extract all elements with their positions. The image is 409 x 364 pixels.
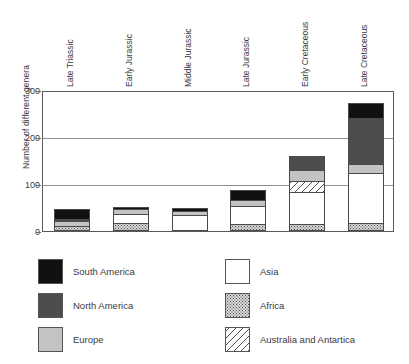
bar-segment-asia xyxy=(114,215,148,224)
bar-late-triassic xyxy=(54,209,90,231)
legend-swatch-asia xyxy=(225,259,250,284)
bar-segment-europe xyxy=(290,171,324,182)
bar-segment-north-america xyxy=(349,119,383,165)
y-tick-mark-300 xyxy=(36,91,41,92)
legend-item-africa[interactable]: Africa xyxy=(225,290,355,320)
legend-column-left: South AmericaNorth AmericaEurope xyxy=(38,256,135,358)
y-tick-label-200: 200 xyxy=(6,133,40,143)
x-axis-label-middle-jurassic: Middle Jurassic xyxy=(183,28,193,87)
bar-segment-africa xyxy=(290,225,324,230)
bar-segment-asia xyxy=(231,207,265,225)
bar-middle-jurassic xyxy=(172,208,208,232)
y-tick-mark-0 xyxy=(36,232,41,233)
legend-item-europe[interactable]: Europe xyxy=(38,324,135,354)
legend-item-south-america[interactable]: South America xyxy=(38,256,135,286)
x-axis-labels: Late TriassicEarly JurassicMiddle Jurass… xyxy=(42,0,394,91)
bar-segment-asia xyxy=(349,174,383,225)
bar-segment-africa xyxy=(349,224,383,230)
legend-swatch-south-america xyxy=(38,259,63,284)
x-axis-label-late-cretaceous: Late Cretaceous xyxy=(359,25,369,87)
legend-item-asia[interactable]: Asia xyxy=(225,256,355,286)
bar-late-cretaceous xyxy=(348,103,384,231)
x-axis-label-early-cretaceous: Early Cretaceous xyxy=(300,22,310,87)
bar-segment-australia-and-antartica xyxy=(290,182,324,193)
y-axis: 300 200 100 0 xyxy=(0,0,40,250)
y-tick-mark-100 xyxy=(36,185,41,186)
y-tick-label-100: 100 xyxy=(6,180,40,190)
bar-group xyxy=(43,92,393,231)
bar-segment-africa xyxy=(114,224,148,230)
bar-segment-asia xyxy=(173,216,207,230)
legend-swatch-africa xyxy=(225,293,250,318)
legend-item-australia-and-antartica[interactable]: Australia and Antartica xyxy=(225,324,355,354)
y-tick-label-0: 0 xyxy=(6,227,40,237)
bar-segment-north-america xyxy=(290,157,324,171)
legend-label: Australia and Antartica xyxy=(260,334,355,345)
x-axis-label-late-jurassic: Late Jurassic xyxy=(241,37,251,87)
legend-label: Africa xyxy=(260,300,284,311)
bar-late-jurassic xyxy=(230,190,266,231)
bar-segment-africa xyxy=(55,227,89,230)
legend-swatch-europe xyxy=(38,327,63,352)
plot-area xyxy=(42,91,394,232)
legend-swatch-australia-and-antartica xyxy=(225,327,250,352)
bar-segment-asia xyxy=(290,193,324,225)
bar-segment-south-america xyxy=(55,210,89,220)
x-axis-label-late-triassic: Late Triassic xyxy=(65,39,75,87)
bar-early-jurassic xyxy=(113,207,149,231)
legend-label: North America xyxy=(73,300,133,311)
x-axis-label-early-jurassic: Early Jurassic xyxy=(124,34,134,87)
y-tick-mark-200 xyxy=(36,138,41,139)
bar-chart-figure: Number of different genera 300 200 100 0… xyxy=(0,0,409,250)
legend-label: Asia xyxy=(260,266,278,277)
bar-segment-europe xyxy=(349,165,383,173)
bar-segment-south-america xyxy=(349,104,383,119)
legend-label: Europe xyxy=(73,334,104,345)
legend-column-right: AsiaAfricaAustralia and Antartica xyxy=(225,256,355,358)
bar-segment-south-america xyxy=(231,191,265,201)
bar-segment-africa xyxy=(231,225,265,230)
chart-legend: South AmericaNorth AmericaEurope AsiaAfr… xyxy=(0,256,409,364)
legend-label: South America xyxy=(73,266,135,277)
y-tick-label-300: 300 xyxy=(6,86,40,96)
bar-early-cretaceous xyxy=(289,156,325,231)
legend-swatch-north-america xyxy=(38,293,63,318)
legend-item-north-america[interactable]: North America xyxy=(38,290,135,320)
